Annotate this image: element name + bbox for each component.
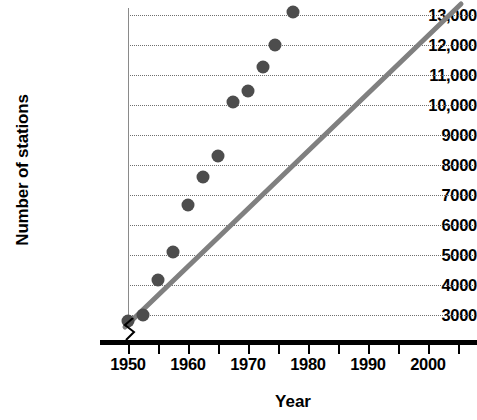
data-point: [242, 85, 255, 98]
data-point: [167, 246, 180, 259]
data-point: [269, 39, 282, 52]
axis-break-icon: [119, 318, 141, 342]
x-axis-line: [100, 340, 477, 345]
y-axis-title: Number of stations: [13, 40, 33, 300]
data-point: [257, 61, 270, 74]
data-point: [152, 274, 165, 287]
y-axis-line: [128, 8, 129, 320]
data-point: [227, 96, 240, 109]
x-axis-title: Year: [128, 392, 458, 412]
x-tick-label: 2000: [393, 355, 463, 374]
data-point: [212, 150, 225, 163]
data-point: [182, 199, 195, 212]
scatter-chart: Number of stations 13,000 12,000 11,000 …: [0, 0, 477, 420]
data-point: [287, 6, 300, 19]
data-point: [197, 171, 210, 184]
